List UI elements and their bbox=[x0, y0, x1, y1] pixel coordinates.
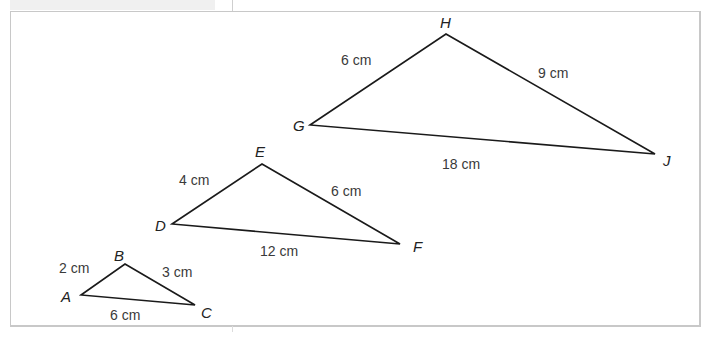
vertex-label-b: B bbox=[114, 247, 124, 264]
vertex-label-g: G bbox=[293, 117, 305, 134]
side-label-ab: 2 cm bbox=[59, 260, 89, 276]
side-label-bc: 3 cm bbox=[162, 264, 192, 280]
vertex-label-c: C bbox=[201, 304, 212, 321]
side-label-ef: 6 cm bbox=[331, 183, 361, 199]
side-label-gh: 6 cm bbox=[341, 52, 371, 68]
triangle-ghj: G H J 6 cm 9 cm 18 cm bbox=[293, 14, 671, 172]
side-label-hj: 9 cm bbox=[538, 65, 568, 81]
vertex-label-j: J bbox=[662, 152, 671, 169]
vertex-label-f: F bbox=[413, 238, 423, 255]
side-label-de: 4 cm bbox=[179, 172, 209, 188]
side-label-gj: 18 cm bbox=[442, 156, 480, 172]
side-label-df: 12 cm bbox=[260, 243, 298, 259]
vertex-label-a: A bbox=[60, 288, 71, 305]
side-label-ac: 6 cm bbox=[110, 307, 140, 323]
triangle-abc: A B C 2 cm 3 cm 6 cm bbox=[59, 247, 212, 323]
triangle-def: D E F 4 cm 6 cm 12 cm bbox=[155, 143, 423, 259]
vertex-label-d: D bbox=[155, 217, 166, 234]
similar-triangles-figure: A B C 2 cm 3 cm 6 cm D E F 4 cm 6 cm 12 … bbox=[0, 0, 706, 338]
vertex-label-e: E bbox=[255, 143, 266, 160]
vertex-label-h: H bbox=[440, 14, 451, 31]
